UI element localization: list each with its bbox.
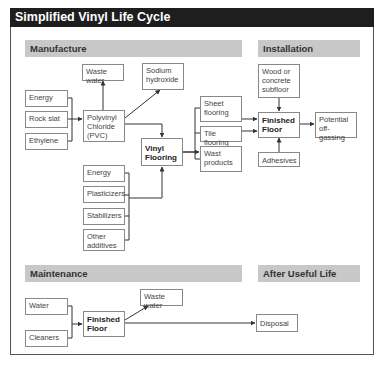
box-maint-waste-water: Waste water xyxy=(140,289,183,306)
box-subfloor: Wood or concrete subfloor xyxy=(258,64,300,98)
box-sodium-hydroxide: Sodium hydroxide xyxy=(142,63,184,90)
box-sheet-flooring: Sheet flooring xyxy=(200,96,242,122)
box-finished-floor-maint: Finished Floor xyxy=(83,311,125,337)
box-pvc: Polyvinyl Chloride (PVC) xyxy=(83,110,125,142)
box-additive-stabilizers: Stabilizers xyxy=(83,208,125,225)
box-waste-water: Waste water xyxy=(82,64,124,81)
box-additive-energy: Energy xyxy=(83,165,125,182)
box-off-gassing: Potential off-gassing xyxy=(315,112,357,138)
box-vinyl-flooring: Vinyl Flooring xyxy=(141,138,183,166)
box-input-energy: Energy xyxy=(25,90,68,107)
box-additive-other: Other additives xyxy=(83,229,125,251)
box-input-ethylene: Ethylene xyxy=(25,133,68,150)
box-finished-floor-install: Finished Floor xyxy=(258,112,300,138)
box-adhesives: Adhesives xyxy=(258,152,300,167)
box-disposal: Disposal xyxy=(256,314,298,332)
box-additive-plasticizers: Plasticizers xyxy=(83,186,125,203)
box-input-rock-slat: Rock slat xyxy=(25,111,68,128)
box-tile-flooring: Tile flooring xyxy=(200,126,242,142)
box-wast-products: Wast products xyxy=(200,146,242,172)
box-water: Water xyxy=(25,298,68,315)
box-cleaners: Cleaners xyxy=(25,330,68,347)
